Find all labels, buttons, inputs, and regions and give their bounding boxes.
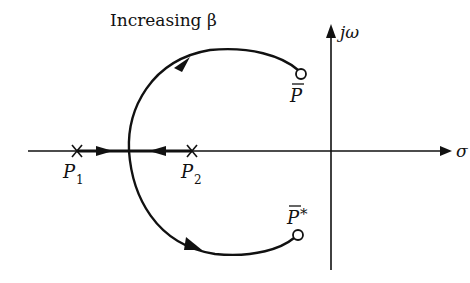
- arrow-left-icon: [149, 146, 166, 156]
- p1-label: P 1: [62, 161, 84, 187]
- svg-text:P: P: [62, 161, 76, 182]
- imag-axis-arrow-icon: [326, 24, 336, 38]
- root-locus-diagram: σ jω Increasing β P 1 P 2 P P *: [0, 0, 470, 283]
- svg-text:1: 1: [76, 173, 84, 187]
- svg-text:P: P: [289, 85, 303, 106]
- imaginary-axis: [326, 24, 336, 270]
- pbar-star-label: P *: [286, 205, 308, 228]
- sigma-label: σ: [456, 141, 468, 161]
- pbar-label: P: [289, 84, 304, 106]
- real-axis-arrow-icon: [440, 146, 452, 156]
- lower-locus-branch: [129, 151, 294, 255]
- svg-text:*: *: [300, 205, 308, 223]
- arrow-right-icon: [96, 146, 113, 156]
- svg-text:P: P: [180, 161, 194, 182]
- increasing-beta-label: Increasing β: [110, 10, 217, 30]
- jomega-label: jω: [336, 22, 359, 42]
- zero-pbar-marker: [296, 69, 306, 79]
- lower-arrow-icon: [184, 237, 202, 250]
- upper-locus-branch: [129, 49, 298, 151]
- svg-text:P: P: [286, 207, 300, 228]
- svg-text:2: 2: [194, 173, 202, 187]
- p2-label: P 2: [180, 161, 202, 187]
- zero-pbar-star-marker: [293, 230, 303, 240]
